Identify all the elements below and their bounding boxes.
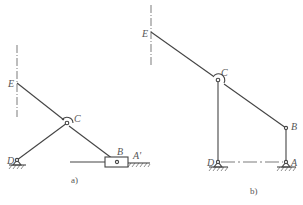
caption-a: a) <box>71 175 78 185</box>
label-e-a: E <box>7 78 14 89</box>
link-cb-b <box>224 84 286 128</box>
label-b-a: B <box>117 146 123 157</box>
ground-hatch-guide-a <box>128 163 150 167</box>
label-c-a: C <box>74 113 81 124</box>
pin-b-b <box>284 126 287 129</box>
link-dc-a <box>17 123 67 160</box>
label-b-b: B <box>291 121 297 132</box>
pin-c-b <box>216 78 220 82</box>
caption-b: b) <box>250 186 258 196</box>
mechanism-diagram: E C D B A' a) E C D B A b) <box>0 0 303 205</box>
link-ec-a <box>17 83 64 120</box>
figure-b <box>151 5 296 171</box>
label-c-b: C <box>221 67 228 78</box>
figure-a <box>9 45 150 169</box>
label-d-a: D <box>6 155 15 166</box>
pin-b-a <box>115 160 118 163</box>
link-ec-b <box>151 32 213 76</box>
label-a-b: A <box>290 157 298 168</box>
pin-c-a <box>65 121 69 125</box>
label-d-b: D <box>206 157 215 168</box>
label-a-prime-a: A' <box>132 150 142 161</box>
label-e-b: E <box>141 28 148 39</box>
